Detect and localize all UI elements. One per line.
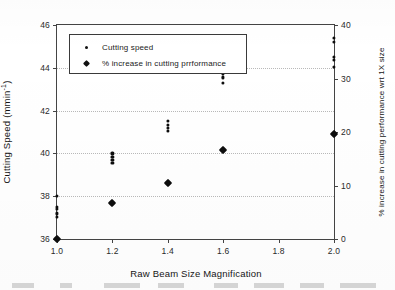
x-axis-tick-label: 1.4 bbox=[162, 246, 174, 256]
y-axis-right-tick bbox=[334, 25, 338, 26]
y-axis-left-tick-label: 44 bbox=[40, 63, 50, 73]
data-point-percent-increase bbox=[330, 129, 338, 137]
y-axis-right-tick-label: 20 bbox=[341, 127, 351, 137]
x-axis-tick bbox=[112, 239, 113, 243]
y-axis-title-right: % increase in cutting performance wrt 1X… bbox=[377, 47, 386, 216]
y-axis-right-tick bbox=[334, 79, 338, 80]
y-axis-left-tick bbox=[53, 153, 57, 154]
figure-scatter-cutting-speed: Cutting Speed (mmin-1) % increase in cut… bbox=[0, 0, 395, 290]
y-axis-left-tick bbox=[53, 25, 57, 26]
x-axis-tick-label: 1.6 bbox=[217, 246, 229, 256]
y-axis-title-left-text: Cutting Speed (mmin bbox=[1, 90, 12, 183]
y-axis-left-tick bbox=[53, 111, 57, 112]
x-axis-tick bbox=[334, 239, 335, 243]
data-point-cutting-speed bbox=[332, 41, 335, 44]
data-point-cutting-speed bbox=[332, 36, 335, 39]
y-axis-left-tick-label: 40 bbox=[40, 148, 50, 158]
legend-label-cutting-speed: Cutting speed bbox=[102, 43, 153, 52]
x-axis-tick-label: 2.0 bbox=[328, 246, 340, 256]
data-point-cutting-speed bbox=[55, 215, 58, 218]
y-axis-left-tick-label: 36 bbox=[40, 234, 50, 244]
data-point-cutting-speed bbox=[222, 81, 225, 84]
legend-item-cutting-speed: Cutting speed bbox=[70, 39, 246, 55]
y-axis-right-tick-label: 30 bbox=[341, 74, 351, 84]
gridline bbox=[57, 196, 334, 197]
y-axis-left-tick-label: 42 bbox=[40, 106, 50, 116]
y-axis-left-tick bbox=[53, 68, 57, 69]
x-axis-title: Raw Beam Size Magnification bbox=[130, 268, 262, 279]
data-point-cutting-speed bbox=[55, 207, 58, 210]
data-point-percent-increase bbox=[53, 235, 61, 243]
data-point-percent-increase bbox=[108, 198, 116, 206]
y-axis-left-tick-label: 38 bbox=[40, 191, 50, 201]
y-axis-right-tick-label: 40 bbox=[341, 20, 351, 30]
y-axis-left-tick-label: 46 bbox=[40, 20, 50, 30]
x-axis-tick bbox=[168, 239, 169, 243]
legend: Cutting speed % increase in cutting prrf… bbox=[69, 34, 247, 74]
x-axis-tick bbox=[279, 239, 280, 243]
data-point-percent-increase bbox=[164, 179, 172, 187]
y-axis-right-tick bbox=[334, 186, 338, 187]
data-point-cutting-speed bbox=[166, 129, 169, 132]
legend-label-percent-increase: % increase in cutting prrformance bbox=[102, 59, 226, 68]
x-axis-tick-label: 1.2 bbox=[106, 246, 118, 256]
y-axis-title-left-close: ) bbox=[1, 80, 12, 83]
data-point-cutting-speed bbox=[332, 65, 335, 68]
y-axis-title-left-superscript: -1 bbox=[0, 84, 7, 91]
data-point-cutting-speed bbox=[111, 161, 114, 164]
y-axis-right-tick-label: 10 bbox=[341, 181, 351, 191]
gridline bbox=[57, 111, 334, 112]
legend-item-percent-increase: % increase in cutting prrformance bbox=[70, 55, 246, 71]
gridline bbox=[57, 153, 334, 154]
legend-marker-dot-icon bbox=[70, 46, 102, 49]
legend-marker-diamond-icon bbox=[70, 61, 102, 66]
plot-area: 363840424446 010203040 1.01.21.41.61.82.… bbox=[56, 24, 335, 240]
data-point-cutting-speed bbox=[332, 59, 335, 62]
x-axis-tick-label: 1.8 bbox=[272, 246, 284, 256]
y-axis-right-tick-label: 0 bbox=[341, 234, 346, 244]
x-axis-tick-label: 1.0 bbox=[51, 246, 63, 256]
data-point-cutting-speed bbox=[55, 195, 58, 198]
data-point-cutting-speed bbox=[222, 76, 225, 79]
scanned-text-artifact bbox=[8, 283, 388, 288]
y-axis-title-left: Cutting Speed (mmin-1) bbox=[0, 80, 12, 183]
x-axis-tick bbox=[223, 239, 224, 243]
